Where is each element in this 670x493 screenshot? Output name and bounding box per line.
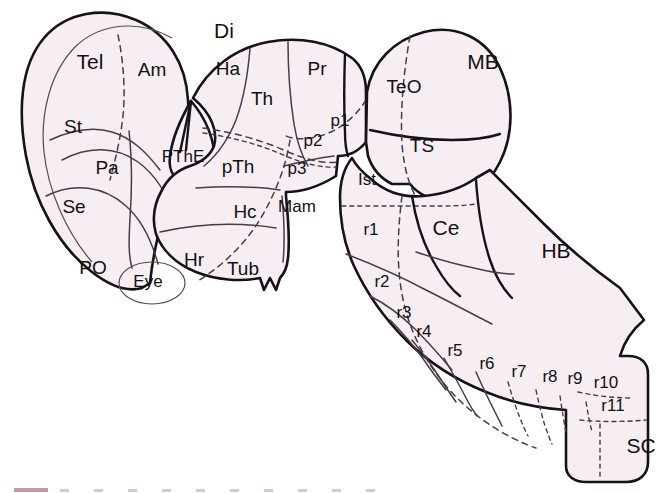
label-r11: r11 [601, 396, 624, 415]
label-eye: Eye [133, 272, 162, 291]
label-po: PO [79, 257, 106, 278]
page-edge-artifact-mark [14, 488, 48, 492]
label-r6: r6 [479, 354, 494, 373]
label-pr: Pr [308, 58, 328, 79]
label-ha: Ha [216, 58, 241, 79]
label-tel: Tel [77, 50, 104, 73]
label-hr: Hr [184, 249, 205, 270]
label-r5: r5 [447, 341, 462, 360]
label-ist: Ist [358, 170, 376, 189]
label-pthe: PThE [162, 147, 205, 166]
region-hindbrain [340, 158, 648, 482]
label-r3: r3 [396, 303, 411, 322]
brain-schematic-svg: .org { fill:#f6eef3; stroke:#17121a; str… [0, 0, 670, 493]
label-p3: p3 [288, 159, 307, 178]
label-pth: pTh [222, 156, 255, 177]
label-ce: Ce [433, 216, 460, 239]
label-r2: r2 [374, 272, 389, 291]
label-am: Am [138, 59, 167, 80]
label-r9: r9 [567, 369, 582, 388]
label-r10: r10 [594, 373, 619, 392]
label-st: St [64, 116, 83, 137]
label-sc: SC [626, 434, 655, 457]
label-r7: r7 [511, 362, 526, 381]
brain-diagram-figure: .org { fill:#f6eef3; stroke:#17121a; str… [0, 0, 670, 493]
label-mam: Mam [278, 197, 316, 216]
label-ts: TS [410, 135, 434, 156]
label-r1: r1 [363, 220, 378, 239]
label-r4: r4 [416, 322, 431, 341]
label-di: Di [214, 19, 234, 42]
label-r8: r8 [542, 367, 557, 386]
label-hb: HB [541, 239, 570, 262]
label-p1: p1 [331, 111, 350, 130]
page-edge-artifact-dots [60, 489, 390, 492]
label-se: Se [62, 196, 85, 217]
label-tub: Tub [227, 258, 259, 279]
label-hc: Hc [233, 201, 256, 222]
label-p2: p2 [304, 131, 323, 150]
label-mb: MB [467, 50, 499, 73]
label-teo: TeO [387, 76, 422, 97]
label-pa: Pa [95, 157, 119, 178]
label-th: Th [251, 88, 273, 109]
